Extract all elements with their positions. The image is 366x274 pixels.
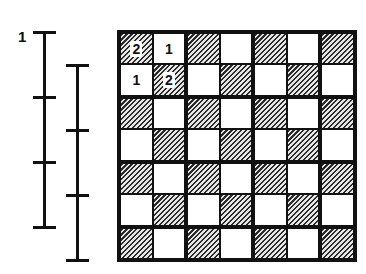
board-cell: [121, 229, 152, 258]
cell-number: 1: [163, 41, 175, 57]
board-cell: [188, 229, 219, 258]
scale-tick: [66, 259, 89, 262]
board-cell: [322, 229, 353, 258]
board-cell: [221, 229, 252, 258]
board-cell: [322, 130, 353, 159]
board-cell: [288, 99, 319, 128]
board-cell: [322, 65, 353, 94]
scale-tick: [33, 31, 56, 34]
board-cell: [121, 195, 152, 224]
board-cell: [188, 130, 219, 159]
board-cell: [288, 164, 319, 193]
cell-number: 1: [130, 72, 142, 88]
cell-number: 2: [130, 41, 142, 57]
figure-label: 1: [18, 28, 26, 45]
board-cell: [221, 99, 252, 128]
board-cell: [255, 130, 286, 159]
board-cell: [188, 164, 219, 193]
board-cell: [154, 164, 185, 193]
board-cell: [121, 130, 152, 159]
board-cell: [121, 164, 152, 193]
board-cell: [154, 130, 185, 159]
board-cell: 1: [121, 65, 152, 94]
board-cell: 2: [154, 65, 185, 94]
board-cell: [288, 34, 319, 63]
board-cell: 1: [154, 34, 185, 63]
board-cell: [255, 164, 286, 193]
board-cell: [255, 65, 286, 94]
board-cell: [288, 65, 319, 94]
board-cell: [121, 99, 152, 128]
board-cell: [288, 229, 319, 258]
board-cell: [221, 65, 252, 94]
scale-tick: [33, 161, 56, 164]
board-cell: [221, 130, 252, 159]
board-cell: [154, 229, 185, 258]
scale-line: [43, 32, 46, 228]
scale-tick: [33, 96, 56, 99]
scale-tick: [66, 194, 89, 197]
scale-tick: [66, 64, 89, 67]
board-cell: [221, 164, 252, 193]
board-cell: [288, 130, 319, 159]
board-cell: [188, 99, 219, 128]
scale-tick: [33, 226, 56, 229]
cell-number: 2: [163, 72, 175, 88]
board-cell: [322, 99, 353, 128]
board-cell: [255, 34, 286, 63]
board-cell: [255, 99, 286, 128]
checkerboard: 2112: [117, 30, 357, 262]
board-cell: [221, 195, 252, 224]
board-cell: [322, 164, 353, 193]
board-cell: [188, 65, 219, 94]
board-cell: [255, 229, 286, 258]
board-cell: [188, 195, 219, 224]
scale-tick: [66, 129, 89, 132]
board-cell: [188, 34, 219, 63]
board-cell: [154, 99, 185, 128]
scale-line: [76, 65, 79, 261]
board-cell: [221, 34, 252, 63]
board-cell: [288, 195, 319, 224]
board-cell: [255, 195, 286, 224]
board-cell: [154, 195, 185, 224]
board-cell: 2: [121, 34, 152, 63]
board-cell: [322, 195, 353, 224]
board-cell: [322, 34, 353, 63]
